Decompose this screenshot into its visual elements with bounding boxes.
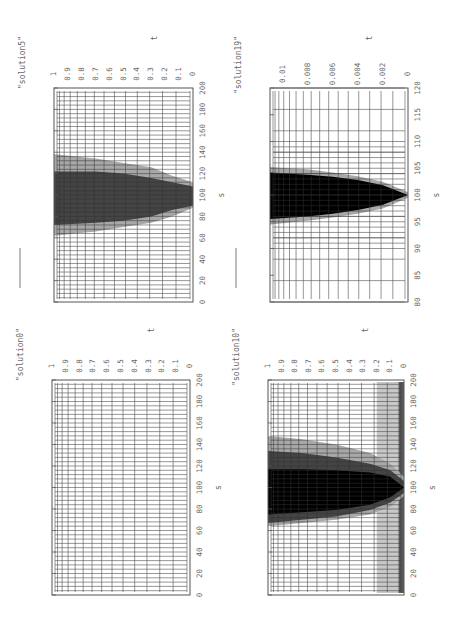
t-tick-label: 0.4	[345, 359, 354, 373]
s-tick-label: 110	[413, 134, 422, 148]
s-axis-label: s	[217, 192, 226, 197]
t-axis-label: t	[147, 327, 156, 332]
s-tick-label: 95	[413, 217, 422, 226]
s-tick-label: 20	[195, 569, 204, 579]
t-tick-label: 0.4	[132, 67, 141, 81]
plot-solution19: 8085909510010511011512000.0020.0040.0060…	[234, 0, 441, 307]
t-tick-label: 0.8	[290, 359, 299, 373]
legend-solution0: "solution0"	[16, 328, 25, 381]
s-tick-label: 60	[198, 233, 207, 243]
s-axis-label: s	[432, 192, 441, 197]
s-tick-label: 120	[195, 459, 204, 473]
s-tick-label: 180	[195, 394, 204, 408]
t-tick-label: 0.2	[372, 359, 381, 373]
t-tick-label: 0.1	[385, 359, 394, 373]
t-tick-label: 0.1	[174, 67, 183, 81]
t-tick-label: 0.008	[303, 62, 312, 85]
t-tick-label: 0.7	[91, 67, 100, 81]
s-tick-label: 80	[413, 297, 422, 307]
t-tick-label: 0	[188, 71, 197, 76]
t-tick-label: 0.2	[160, 67, 169, 81]
s-tick-label: 160	[409, 416, 418, 430]
mesh-grid	[271, 383, 401, 592]
s-tick-label: 120	[409, 459, 418, 473]
s-tick-label: 0	[198, 299, 207, 304]
mesh-grid	[57, 91, 190, 299]
t-tick-label: 1	[49, 72, 58, 77]
t-tick-label: 0.7	[304, 359, 313, 373]
legend-solution5: "solution5"	[18, 36, 27, 89]
t-tick-label: 0.8	[75, 359, 84, 373]
t-axis-label: t	[150, 35, 159, 40]
s-tick-label: 40	[409, 547, 418, 557]
t-tick-label: 0.01	[278, 65, 287, 83]
s-tick-label: 90	[413, 244, 422, 254]
s-tick-label: 180	[409, 394, 418, 408]
s-axis-label: s	[428, 485, 437, 490]
mesh-grid	[55, 383, 187, 592]
s-tick-label: 80	[409, 504, 418, 514]
t-tick-label: 0	[399, 363, 408, 368]
t-tick-label: 0.3	[144, 359, 153, 373]
t-tick-label: 0.002	[378, 63, 387, 86]
t-axis-label: t	[365, 35, 374, 40]
t-tick-label: 0.3	[358, 359, 367, 373]
s-tick-label: 100	[198, 188, 207, 202]
gnuplot-page: 02040608010012014016018020000.10.20.30.4…	[0, 0, 453, 626]
t-tick-label: 0.6	[317, 359, 326, 373]
s-tick-label: 60	[409, 526, 418, 536]
s-tick-label: 100	[413, 188, 422, 202]
s-tick-label: 105	[413, 161, 422, 175]
t-tick-label: 0	[403, 71, 412, 76]
s-tick-label: 40	[198, 254, 207, 264]
s-tick-label: 200	[195, 373, 204, 387]
s-tick-label: 40	[195, 547, 204, 557]
s-tick-label: 100	[195, 480, 204, 494]
plot-solution5: 02040608010012014016018020000.10.20.30.4…	[18, 0, 226, 304]
t-tick-label: 0.6	[105, 67, 114, 81]
s-tick-label: 200	[198, 81, 207, 95]
s-tick-label: 200	[409, 373, 418, 387]
t-axis-label: t	[361, 327, 370, 332]
s-tick-label: 140	[198, 145, 207, 159]
t-tick-label: 0.3	[146, 67, 155, 81]
s-tick-label: 20	[409, 569, 418, 579]
s-tick-label: 160	[195, 416, 204, 430]
t-tick-label: 0	[185, 363, 194, 368]
s-tick-label: 120	[198, 166, 207, 180]
legend-solution19: "solution19"	[234, 36, 243, 94]
t-tick-label: 0.5	[331, 359, 340, 373]
s-tick-label: 60	[195, 526, 204, 536]
t-tick-label: 0.4	[130, 359, 139, 373]
legend-solution10: "solution10"	[232, 328, 241, 386]
t-tick-label: 0.2	[157, 359, 166, 373]
t-tick-label: 0.9	[277, 359, 286, 373]
t-tick-label: 0.9	[61, 359, 70, 373]
t-tick-label: 1	[47, 364, 56, 369]
s-tick-label: 80	[198, 211, 207, 221]
t-tick-label: 0.9	[63, 67, 72, 81]
s-tick-label: 140	[409, 437, 418, 451]
s-tick-label: 180	[198, 102, 207, 116]
t-tick-label: 0.006	[328, 62, 337, 85]
t-tick-label: 0.8	[77, 67, 86, 81]
s-tick-label: 85	[413, 271, 422, 280]
t-tick-label: 0.5	[116, 359, 125, 373]
t-tick-label: 0.5	[119, 67, 128, 81]
s-tick-label: 100	[409, 480, 418, 494]
s-tick-label: 0	[409, 592, 418, 597]
s-tick-label: 80	[195, 504, 204, 514]
s-tick-label: 20	[198, 276, 207, 286]
s-tick-label: 0	[195, 592, 204, 597]
s-tick-label: 120	[413, 81, 422, 95]
t-tick-label: 0.6	[102, 359, 111, 373]
t-tick-label: 0.7	[88, 359, 97, 373]
s-tick-label: 140	[195, 437, 204, 451]
s-tick-label: 115	[413, 108, 422, 122]
t-tick-label: 0.1	[171, 359, 180, 373]
t-tick-label: 0.004	[353, 62, 362, 85]
s-axis-label: s	[214, 485, 223, 490]
t-tick-label: 1	[263, 364, 272, 369]
s-tick-label: 160	[198, 124, 207, 138]
